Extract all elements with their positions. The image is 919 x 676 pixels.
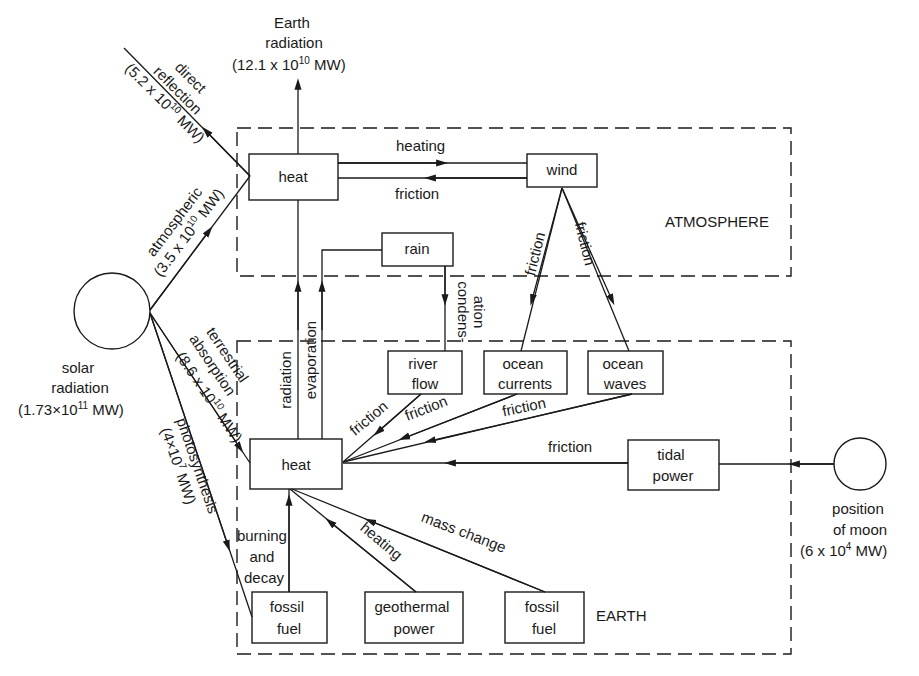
svg-text:evaporation: evaporation [302, 321, 319, 399]
earth-radiation-value: (12.1 x 1010 MW) [232, 55, 346, 73]
direct-reflection-arrow [206, 131, 250, 176]
moon-circle [834, 438, 886, 490]
sun-value: (1.73×1011 MW) [18, 400, 124, 418]
atmospheric-label: atmospheric (3.5 x 1010 MW) [136, 174, 227, 279]
direct-reflection-label: direct reflection (5.2 x 1010 MW) [122, 34, 234, 146]
svg-text:condens-: condens- [455, 281, 472, 343]
atmosphere-region [237, 128, 791, 276]
photosynthesis-label: photosynthesis (4×107 MW) [156, 416, 222, 522]
energy-flow-diagram: ATMOSPHERE EARTH solar radiation (1.73×1… [0, 0, 919, 676]
rain-label: rain [404, 240, 429, 257]
moon-label: position of moon [832, 500, 888, 538]
sun-label: solar radiation [51, 359, 109, 396]
svg-text:friction: friction [346, 397, 391, 438]
currents-friction-label: friction [402, 392, 449, 424]
earth-heat-label: heat [281, 456, 311, 473]
atmosphere-label: ATMOSPHERE [665, 213, 769, 230]
wind-to-waves-line [562, 188, 629, 351]
wind-label: wind [546, 161, 578, 178]
evaporation-label: evaporation [302, 321, 319, 399]
svg-text:friction: friction [572, 220, 599, 267]
condensation-label: condens- ation [455, 281, 488, 343]
svg-text:friction: friction [402, 392, 449, 424]
svg-text:ation: ation [471, 296, 488, 329]
heating-label: heating [396, 137, 445, 154]
mass-change-label: mass change [419, 508, 508, 556]
sun-circle [74, 273, 150, 349]
earth-radiation-label: Earth radiation [265, 14, 323, 51]
svg-text:mass change: mass change [419, 508, 508, 556]
tidal-friction-label: friction [548, 438, 592, 455]
svg-text:radiation: radiation [277, 351, 294, 409]
atmosphere-heat-label: heat [278, 168, 308, 185]
moon-value: (6 x 104 MW) [800, 541, 887, 559]
radiation-label: radiation [277, 351, 294, 409]
river-friction-label: friction [346, 397, 391, 438]
earth-label: EARTH [596, 607, 647, 624]
burning-decay-label: burning and decay [237, 527, 291, 586]
friction-return-label: friction [395, 185, 439, 202]
wind-friction-right-label: friction [572, 220, 599, 267]
